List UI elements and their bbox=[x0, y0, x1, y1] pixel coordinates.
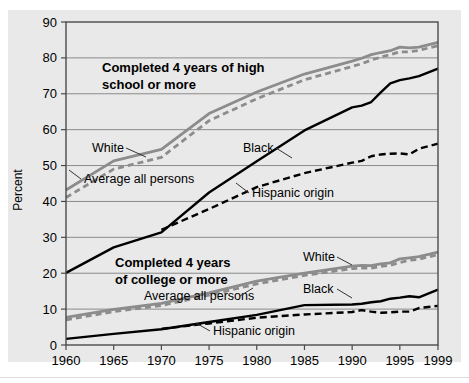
y-tick-label: 10 bbox=[43, 302, 57, 317]
callout-hs-black: Black bbox=[243, 141, 274, 155]
leader-hs-average bbox=[69, 170, 81, 179]
x-tick-label: 1975 bbox=[195, 353, 224, 368]
leader-hs-black bbox=[276, 148, 292, 158]
y-tick-label: 50 bbox=[43, 158, 57, 173]
education-attainment-line-chart: 0102030405060708090 19601965197019751980… bbox=[0, 0, 469, 383]
x-tick-label: 1995 bbox=[385, 353, 414, 368]
leader-col-black bbox=[337, 289, 352, 298]
x-tick-label: 1965 bbox=[99, 353, 128, 368]
y-tick-label: 60 bbox=[43, 122, 57, 137]
high-school-group-title-line1: Completed 4 years of high bbox=[102, 60, 265, 75]
y-tick-label: 30 bbox=[43, 230, 57, 245]
callout-col-white: White bbox=[303, 250, 335, 264]
callout-col-hispanic: Hispanic origin bbox=[213, 324, 295, 338]
college-group-title-line2: of college or more bbox=[115, 272, 228, 287]
callout-col-average: Average all persons bbox=[144, 289, 254, 303]
callout-hs-average: Average all persons bbox=[84, 172, 194, 186]
x-tick-label: 1960 bbox=[52, 353, 81, 368]
series-high-school-black bbox=[66, 69, 438, 273]
y-tick-label: 40 bbox=[43, 194, 57, 209]
x-tick-label: 1980 bbox=[242, 353, 271, 368]
x-tick-label: 1990 bbox=[338, 353, 367, 368]
y-tick-label: 0 bbox=[50, 338, 57, 353]
y-tick-label: 20 bbox=[43, 266, 57, 281]
y-tick-label: 90 bbox=[43, 15, 57, 30]
y-axis-tick-labels: 0102030405060708090 bbox=[43, 15, 57, 353]
x-tick-label: 1999 bbox=[424, 353, 453, 368]
y-tick-label: 80 bbox=[43, 50, 57, 65]
x-axis-tick-labels: 196019651970197519801985199019951999 bbox=[52, 353, 453, 368]
x-tick-label: 1970 bbox=[147, 353, 176, 368]
callout-hs-hispanic: Hispanic origin bbox=[252, 186, 334, 200]
college-group-title-line1: Completed 4 years bbox=[115, 255, 231, 270]
y-axis-title: Percent bbox=[11, 169, 25, 211]
high-school-group-title-line2: school or more bbox=[102, 77, 196, 92]
leader-hs-hispanic bbox=[236, 183, 249, 193]
x-axis-tick-marks bbox=[66, 345, 438, 350]
x-tick-label: 1985 bbox=[290, 353, 319, 368]
y-tick-label: 70 bbox=[43, 86, 57, 101]
callout-col-black: Black bbox=[303, 282, 334, 296]
callout-hs-white: White bbox=[92, 141, 124, 155]
leader-col-white bbox=[337, 257, 352, 265]
